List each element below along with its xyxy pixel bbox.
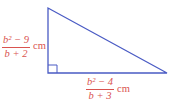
right-triangle	[48, 8, 167, 73]
horizontal-leg-denominator: b + 3	[86, 90, 114, 102]
horizontal-leg-label: b² − 4 b + 3	[86, 77, 114, 101]
vertical-leg-numerator: b² − 9	[2, 35, 30, 48]
vertical-leg-denominator: b + 2	[2, 48, 30, 60]
vertical-leg-unit: cm	[33, 40, 46, 51]
horizontal-leg-numerator: b² − 4	[86, 77, 114, 90]
vertical-leg-label: b² − 9 b + 2	[2, 35, 30, 59]
right-angle-marker	[48, 65, 57, 73]
horizontal-leg-unit: cm	[117, 83, 130, 94]
